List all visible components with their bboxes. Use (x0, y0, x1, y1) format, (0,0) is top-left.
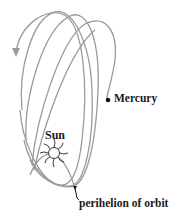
pointer-tip-icon (73, 186, 77, 190)
orbit-diagram (0, 0, 184, 215)
arrowhead-icon (12, 48, 20, 57)
orbit-path-1 (16, 13, 85, 185)
planet-dot-icon (106, 98, 111, 103)
perihelion-label: perihelion of orbit (79, 197, 168, 209)
sun-label: Sun (45, 128, 65, 143)
orbit-path-4 (32, 21, 115, 165)
mercury-label: Mercury (114, 92, 157, 104)
